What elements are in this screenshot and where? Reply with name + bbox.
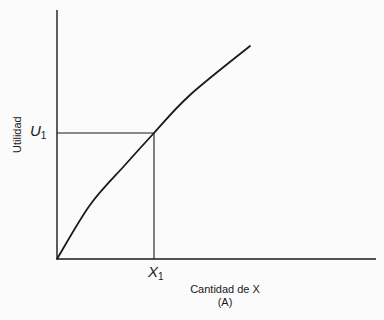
- chart-plot-area: [0, 0, 384, 320]
- x-axis-label: Cantidad de X: [180, 283, 270, 296]
- u1-sub: 1: [41, 130, 47, 141]
- x-axis-label-block: Cantidad de X (A): [180, 283, 270, 309]
- u1-base: U: [30, 122, 41, 139]
- y-axis-label: Utilidad: [11, 116, 23, 153]
- u1-tick-label: U1: [30, 122, 46, 141]
- x1-sub: 1: [158, 271, 164, 282]
- x1-base: X: [148, 263, 158, 280]
- x1-tick-label: X1: [148, 263, 164, 282]
- chart-figure: Utilidad U1 X1 Cantidad de X (A): [0, 0, 384, 320]
- chart-caption: (A): [180, 296, 270, 309]
